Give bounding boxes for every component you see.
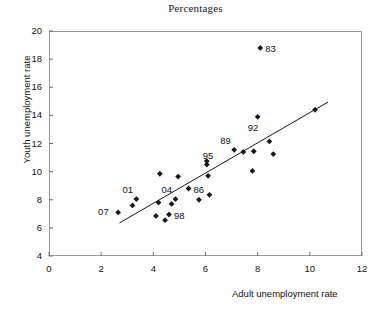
x-tick-label-10: 10	[299, 263, 321, 274]
data-point-label-83: 83	[265, 43, 276, 54]
data-point-label-98: 98	[174, 210, 185, 221]
y-tick-label-16: 16	[20, 81, 42, 92]
data-point-label-01: 01	[122, 184, 133, 195]
y-tick-label-4: 4	[20, 250, 42, 261]
y-tick-label-18: 18	[20, 53, 42, 64]
x-axis-title: Adult unemployment rate	[232, 288, 338, 299]
chart-title: Percentages	[0, 2, 391, 14]
data-point-label-92: 92	[248, 122, 259, 133]
x-tick-label-4: 4	[142, 263, 164, 274]
x-tick-label-0: 0	[38, 263, 60, 274]
y-tick-label-12: 12	[20, 138, 42, 149]
y-tick-label-20: 20	[20, 25, 42, 36]
data-point-label-95: 95	[203, 150, 214, 161]
data-point-label-07: 07	[98, 206, 109, 217]
data-point-label-89: 89	[220, 135, 231, 146]
y-tick-label-6: 6	[20, 222, 42, 233]
y-tick-label-8: 8	[20, 194, 42, 205]
data-point-label-04: 04	[162, 184, 173, 195]
x-tick-label-12: 12	[351, 263, 373, 274]
data-point-label-86: 86	[194, 184, 205, 195]
x-tick-label-2: 2	[90, 263, 112, 274]
plot-area	[49, 31, 362, 256]
y-tick-label-14: 14	[20, 109, 42, 120]
y-tick-label-10: 10	[20, 166, 42, 177]
x-tick-label-8: 8	[247, 263, 269, 274]
scatter-chart-figure: Percentages Youth unemployment rate Adul…	[0, 0, 391, 311]
x-tick-label-6: 6	[195, 263, 217, 274]
